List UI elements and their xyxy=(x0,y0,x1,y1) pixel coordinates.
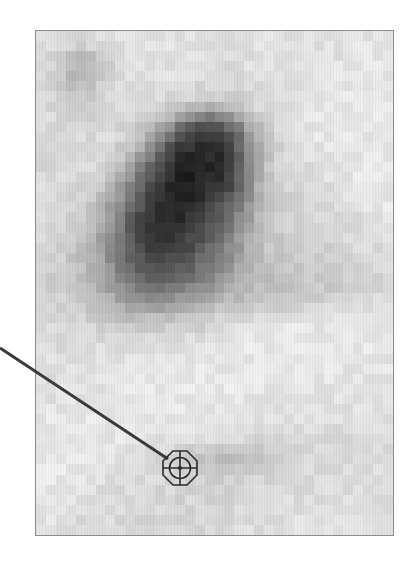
pixelated-eye-image-panel[interactable] xyxy=(35,30,394,536)
crosshair-target-marker[interactable] xyxy=(163,451,197,485)
marker-center-dot xyxy=(178,466,182,470)
pixelated-eye-raster xyxy=(36,31,393,535)
figure-root xyxy=(0,0,412,563)
